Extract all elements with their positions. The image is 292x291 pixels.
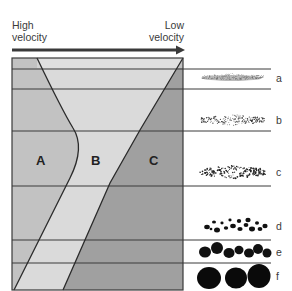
sediment-a-particles bbox=[202, 73, 264, 81]
region-c-label: C bbox=[149, 153, 158, 168]
sediment-label-d: d bbox=[276, 220, 282, 232]
sediment-e-pebbles bbox=[199, 242, 272, 258]
sediment-label-a: a bbox=[276, 72, 282, 84]
sediment-label-c: c bbox=[276, 166, 281, 178]
sediment-c-particles bbox=[199, 165, 265, 179]
sediment-label-f: f bbox=[276, 270, 279, 282]
region-b-label: B bbox=[91, 153, 100, 168]
top-strip bbox=[37, 58, 183, 68]
sediment-label-e: e bbox=[276, 246, 282, 258]
velocity-arrow bbox=[12, 46, 185, 55]
region-a-label: A bbox=[36, 153, 45, 168]
sediment-f-cobbles bbox=[197, 264, 271, 289]
sediment-b-particles bbox=[201, 115, 265, 126]
sediment-d-granules bbox=[204, 218, 267, 233]
sediment-label-b: b bbox=[276, 114, 282, 126]
sediment-velocity-diagram bbox=[0, 0, 292, 291]
